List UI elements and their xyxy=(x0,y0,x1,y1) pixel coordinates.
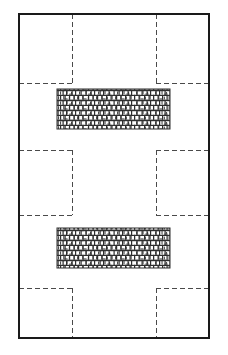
technical-drawing-figure xyxy=(0,0,228,355)
drawing-canvas xyxy=(0,0,228,355)
masonry-block-lower xyxy=(57,228,170,268)
masonry-block-upper xyxy=(57,89,170,129)
figure-background xyxy=(0,0,228,355)
